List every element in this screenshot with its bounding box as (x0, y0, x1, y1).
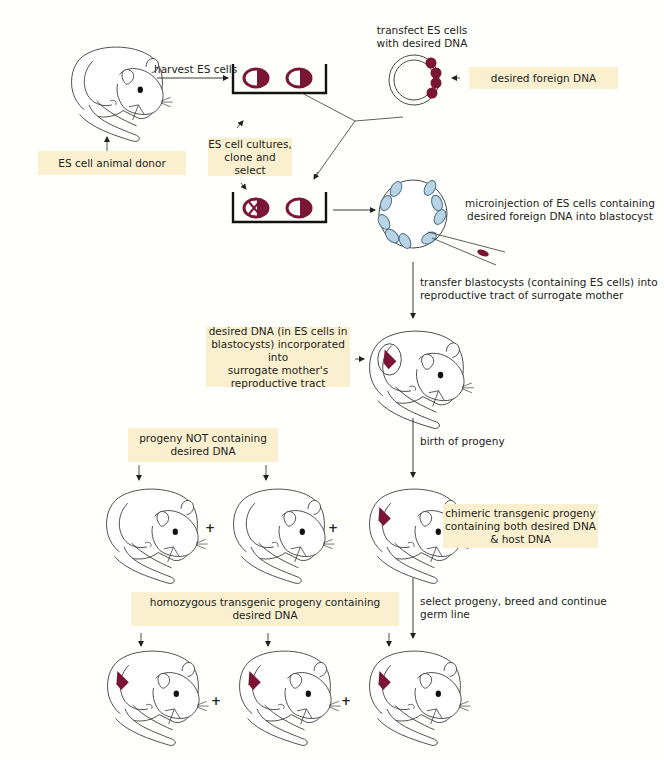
birth-label: birth of progeny (420, 435, 505, 448)
homozygous-mouse-1 (108, 651, 209, 745)
plus-sign-1: + (205, 522, 215, 535)
plasmid-dna (389, 55, 442, 105)
micropipette (428, 232, 505, 265)
transfer-label: transfer blastocysts (containing ES cell… (420, 276, 658, 302)
culture-dish-2 (233, 192, 326, 222)
donor-mouse (72, 47, 173, 141)
transfect-label: transfect ES cells with desired DNA (362, 24, 482, 50)
select-label: select progeny, breed and continue germ … (420, 595, 607, 621)
transfect-connector (300, 92, 403, 176)
surrogate-mother-mouse (370, 331, 474, 428)
desired-foreign-dna-box: desired foreign DNA (469, 67, 618, 89)
incorporated-box: desired DNA (in ES cells in blastocysts)… (206, 327, 350, 387)
harvest-label: harvest ES cells (154, 63, 237, 76)
progeny-mouse-2 (234, 489, 335, 583)
plus-sign-2: + (328, 522, 338, 535)
es-donor-box: ES cell animal donor (38, 151, 186, 175)
progeny-mouse-1 (107, 489, 208, 583)
es-cultures-box: ES cell cultures, clone and select (208, 138, 292, 176)
chimeric-box: chimeric transgenic progeny containing b… (443, 504, 598, 548)
plus-sign-4: + (341, 695, 351, 708)
microinjection-label: microinjection of ES cells containing de… (460, 197, 660, 223)
homozygous-mouse-3 (370, 651, 471, 745)
not-containing-box: progeny NOT containing desired DNA (128, 428, 278, 462)
blastocyst (376, 179, 449, 251)
homozygous-mouse-2 (240, 651, 341, 745)
homozygous-box: homozygous transgenic progeny containing… (131, 592, 399, 626)
plus-sign-3: + (211, 695, 221, 708)
culture-dish-1 (233, 64, 326, 93)
